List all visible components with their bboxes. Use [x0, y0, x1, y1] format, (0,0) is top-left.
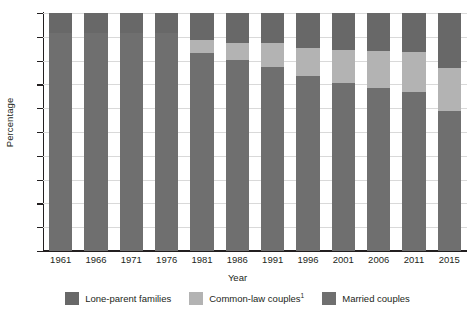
- x-tick-label: 2015: [432, 255, 467, 265]
- bar: [49, 13, 72, 251]
- legend-item: Married couples: [322, 292, 410, 305]
- plot-area: [43, 13, 467, 251]
- legend-label: Common-law couples1: [209, 293, 304, 304]
- bar-segment: [261, 13, 284, 43]
- bar: [261, 13, 284, 251]
- bar-segment: [438, 111, 461, 251]
- stacked-bar-chart: Percentage 0102030405060708090100 196119…: [0, 0, 475, 318]
- bar: [296, 13, 319, 251]
- bar-segment: [120, 13, 143, 33]
- bar-segment: [226, 43, 249, 60]
- bar-segment: [296, 76, 319, 251]
- bar-segment: [438, 68, 461, 111]
- legend-swatch: [189, 292, 203, 305]
- x-tick-label: 1991: [255, 255, 290, 265]
- x-axis-title: Year: [0, 272, 475, 283]
- bar-segment: [296, 48, 319, 76]
- bar-segment: [84, 33, 107, 251]
- legend-swatch: [322, 292, 336, 305]
- x-tick-label: 1961: [43, 255, 78, 265]
- bar: [438, 13, 461, 251]
- bar-segment: [332, 50, 355, 83]
- bar-segment: [438, 13, 461, 68]
- bar-segment: [190, 40, 213, 53]
- bar-segment: [367, 88, 390, 251]
- bar: [332, 13, 355, 251]
- chart-legend: Lone-parent familiesCommon-law couples1M…: [0, 292, 475, 305]
- legend-item: Lone-parent families: [65, 292, 171, 305]
- bar: [402, 13, 425, 251]
- bar-segment: [155, 13, 178, 33]
- bar: [226, 13, 249, 251]
- y-axis-title: Percentage: [4, 83, 15, 163]
- bar: [155, 13, 178, 251]
- bar-segment: [190, 13, 213, 40]
- x-tick-label: 2006: [361, 255, 396, 265]
- bar-segment: [332, 13, 355, 50]
- x-tick-label: 1976: [149, 255, 184, 265]
- x-tick-label: 2011: [396, 255, 431, 265]
- bar-segment: [261, 43, 284, 67]
- bar-segment: [49, 13, 72, 33]
- bar-segment: [155, 33, 178, 251]
- legend-swatch: [65, 292, 79, 305]
- legend-item: Common-law couples1: [189, 292, 304, 305]
- bar-segment: [49, 33, 72, 251]
- bar-segment: [367, 51, 390, 88]
- legend-label: Married couples: [342, 294, 410, 304]
- bar: [367, 13, 390, 251]
- bar-segment: [190, 53, 213, 251]
- bar-segment: [226, 13, 249, 43]
- legend-label: Lone-parent families: [85, 294, 171, 304]
- bar-segment: [402, 52, 425, 92]
- y-tick-mark: [37, 251, 43, 252]
- bar-segment: [402, 13, 425, 52]
- x-tick-label: 1966: [78, 255, 113, 265]
- bar-segment: [402, 92, 425, 251]
- x-tick-label: 2001: [326, 255, 361, 265]
- bar-segment: [120, 33, 143, 251]
- bar-segment: [261, 67, 284, 251]
- bar: [190, 13, 213, 251]
- x-tick-label: 1996: [290, 255, 325, 265]
- bar-segment: [84, 13, 107, 33]
- x-tick-label: 1971: [114, 255, 149, 265]
- bar: [84, 13, 107, 251]
- x-tick-label: 1986: [220, 255, 255, 265]
- bar-segment: [367, 13, 390, 51]
- bar-segment: [296, 13, 319, 48]
- bar-segment: [226, 60, 249, 251]
- x-tick-label: 1981: [184, 255, 219, 265]
- bar: [120, 13, 143, 251]
- bar-segment: [332, 83, 355, 251]
